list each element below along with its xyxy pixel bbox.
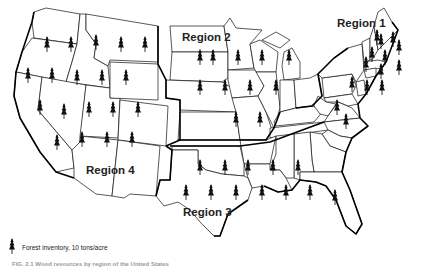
state-washington [32,8,80,44]
figure-caption: FIG. 2.1 Wood resources by region of the… [12,261,170,267]
tree-icon [307,184,313,200]
region-label-2: Region 2 [182,31,231,43]
state-new-jersey [356,80,366,96]
region-label-1: Region 1 [337,17,386,29]
state-wyoming [110,62,158,100]
legend-text: Forest inventory, 10 tons/acre [22,244,108,252]
tree-icon [396,59,402,75]
state-kansas [178,112,240,140]
state-indiana [280,80,296,112]
tree-icon [396,39,402,55]
state-colorado [118,100,168,146]
tree-icon [9,238,15,254]
region-label-3: Region 3 [183,206,232,218]
state-maine [374,8,398,50]
legend: Forest inventory, 10 tons/acre [9,238,108,254]
us-forest-region-map: Region 1 Region 2 Region 3 Region 4 Fore… [0,0,424,267]
tree-icon [379,79,385,95]
region-label-4: Region 4 [86,164,135,176]
